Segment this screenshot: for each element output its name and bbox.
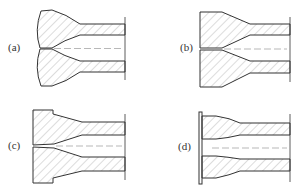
panel-c-drawing [33,110,125,183]
panel-c-lower-wall [33,147,125,183]
panel-c-label: (c) [8,140,20,151]
diagram-canvas [0,0,299,194]
panel-d-drawing [199,112,290,184]
panel-c-upper-wall [33,110,125,145]
panel-a-lower-wall [37,49,125,86]
panel-d-label: (d) [178,141,191,152]
panel-a-drawing [37,10,125,86]
panel-a-label: (a) [8,42,20,53]
panel-b-drawing [200,12,290,87]
panel-d-lower-wall [202,156,290,178]
panel-b-upper-wall [200,12,290,48]
panel-b-lower-wall [200,50,290,87]
nozzle-diagram-figure: (a) (b) (c) (d) [0,0,299,194]
panel-d-upper-wall [202,116,290,139]
panel-b-label: (b) [180,42,193,53]
panel-a-upper-wall [37,10,125,48]
